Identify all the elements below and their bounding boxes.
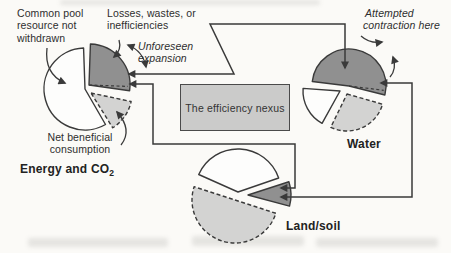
energy-co2-title-subscript: 2 <box>109 168 114 178</box>
land-soil-title: Land/soil <box>286 219 340 233</box>
attempted-contraction-label-line2: contraction here <box>363 19 440 31</box>
losses-label-line2: inefficiencies <box>107 19 196 31</box>
water-title: Water <box>347 137 381 151</box>
net-beneficial-label: Net beneficial consumption <box>42 131 118 156</box>
losses-label: Losses, wastes, or inefficiencies <box>107 7 196 32</box>
attempted-contraction-label: Attempted contraction here <box>365 7 440 32</box>
common-pool-label-line3: withdrawn <box>17 32 83 44</box>
land-soil-segment-common-pool-resource-not-withdrawn <box>199 149 279 192</box>
energy-co2-segment-losses-wastes-inefficiencies <box>89 44 130 91</box>
common-pool-label-line1: Common pool <box>17 7 83 19</box>
unforeseen-expansion-label: Unforeseen expansion <box>138 40 193 65</box>
energy-co2-pie <box>44 44 131 130</box>
attempted-contraction-arrow-top <box>361 36 382 42</box>
net-beneficial-label-line1: Net beneficial <box>42 131 118 143</box>
land-soil-pie <box>192 149 291 243</box>
water-segment-common-pool-resource-not-withdrawn <box>303 88 340 123</box>
efficiency-nexus-figure: The efficiency nexus Common pool resourc… <box>0 0 451 253</box>
unforeseen-expansion-label-line1: Unforeseen <box>138 40 193 52</box>
water-segment-losses-wastes-inefficiencies <box>312 49 386 95</box>
attempted-contraction-label-line1: Attempted <box>365 7 440 19</box>
energy-co2-title-text: Energy and CO <box>20 162 109 176</box>
attempted-contraction-arrow-right <box>390 57 394 77</box>
common-pool-label: Common pool resource not withdrawn <box>17 7 83 44</box>
net-beneficial-label-line2: consumption <box>42 143 118 155</box>
unforeseen-expansion-label-line2: expansion <box>138 52 193 64</box>
energy-co2-title: Energy and CO2 <box>20 162 114 178</box>
common-pool-label-line2: resource not <box>17 19 83 31</box>
water-segment-net-beneficial-consumption <box>331 94 383 131</box>
losses-label-line1: Losses, wastes, or <box>107 7 196 19</box>
